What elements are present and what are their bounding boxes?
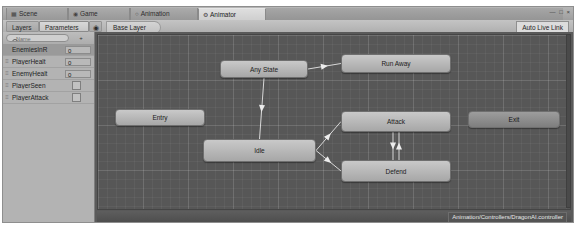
transition-arrow-icon — [259, 105, 265, 112]
parameter-checkbox[interactable] — [72, 93, 81, 102]
state-machine-canvas[interactable]: Any StateRun AwayEntryIdleAttackDefendEx… — [97, 34, 571, 210]
tab-strip-filler — [266, 8, 563, 20]
drag-handle-icon[interactable]: ≡ — [3, 56, 11, 67]
animator-icon: ⚙ — [203, 9, 208, 21]
tab-animation-label: Animation — [141, 8, 170, 20]
parameter-name-label: EnemiesInR — [11, 46, 65, 53]
state-node-attack[interactable]: Attack — [341, 111, 451, 132]
state-node-defend[interactable]: Defend — [341, 160, 451, 182]
parameter-row[interactable]: ≡EnemyHealt0 — [3, 68, 94, 80]
eye-icon[interactable]: ◉ — [89, 21, 102, 32]
graph-scrollbar[interactable] — [566, 34, 571, 208]
state-node-idle[interactable]: Idle — [203, 139, 316, 162]
game-icon: ◉ — [73, 8, 78, 20]
parameter-value-field[interactable]: 0 — [65, 70, 91, 78]
parameter-name-label: EnemyHealt — [11, 70, 65, 77]
tab-game-label: Game — [80, 8, 98, 20]
window-controls[interactable]: — □ × — [550, 9, 571, 15]
parameter-name-label: PlayerHealt — [11, 58, 65, 65]
drag-handle-icon[interactable]: ≡ — [3, 92, 11, 103]
controller-path-label: Animation/Controllers/DragonAI.controlle… — [448, 212, 567, 222]
animator-graph-panel[interactable]: Any StateRun AwayEntryIdleAttackDefendEx… — [95, 32, 573, 222]
parameter-row[interactable]: EnemiesInR0 — [3, 44, 94, 56]
state-node-exit[interactable]: Exit — [468, 111, 560, 128]
animator-window-root: ▦ Scene ◉ Game ○ Animation ⚙ Animator — … — [0, 0, 580, 229]
parameter-checkbox[interactable] — [72, 81, 81, 90]
parameter-row[interactable]: ≡PlayerHealt0 — [3, 56, 94, 68]
tab-animator-label: Animator — [210, 9, 236, 21]
state-node-label: Defend — [386, 168, 407, 175]
state-node-run-away[interactable]: Run Away — [341, 54, 451, 73]
transition-arrow-icon — [396, 143, 402, 150]
tab-animator[interactable]: ⚙ Animator — [198, 8, 266, 20]
state-node-entry[interactable]: Entry — [115, 109, 205, 126]
parameter-value-field[interactable]: 0 — [65, 46, 91, 54]
search-icon — [12, 39, 18, 43]
parameter-value-field[interactable]: 0 — [65, 58, 91, 66]
editor-tab-strip: ▦ Scene ◉ Game ○ Animation ⚙ Animator — … — [3, 7, 573, 21]
tab-scene-label: Scene — [19, 8, 37, 20]
state-node-label: Attack — [387, 118, 405, 125]
search-input[interactable]: Name — [6, 34, 69, 42]
parameter-list: EnemiesInR0≡PlayerHealt0≡EnemyHealt0≡Pla… — [3, 44, 94, 222]
tab-animation[interactable]: ○ Animation — [130, 8, 198, 20]
graph-status-bar: Animation/Controllers/DragonAI.controlle… — [97, 211, 571, 222]
tab-scene[interactable]: ▦ Scene — [6, 8, 68, 20]
parameters-panel: Name + EnemiesInR0≡PlayerHealt0≡EnemyHea… — [3, 32, 95, 222]
parameter-name-label: PlayerAttack — [11, 94, 72, 101]
tab-game[interactable]: ◉ Game — [68, 8, 130, 20]
state-node-label: Any State — [250, 66, 278, 73]
drag-handle-icon[interactable]: ≡ — [3, 80, 11, 91]
add-parameter-button[interactable]: + — [73, 34, 89, 42]
state-node-label: Run Away — [381, 60, 410, 67]
drag-handle-icon[interactable]: ≡ — [3, 68, 11, 79]
parameter-row[interactable]: ≡PlayerSeen — [3, 80, 94, 92]
parameter-row[interactable]: ≡PlayerAttack — [3, 92, 94, 104]
scene-icon: ▦ — [11, 8, 17, 20]
state-node-any-state[interactable]: Any State — [220, 60, 308, 78]
state-node-label: Exit — [509, 116, 520, 123]
parameter-name-label: PlayerSeen — [11, 82, 72, 89]
layers-button[interactable]: Layers — [6, 21, 39, 32]
parameters-button[interactable]: Parameters — [39, 21, 89, 32]
state-node-label: Idle — [254, 147, 264, 154]
editor-window: ▦ Scene ◉ Game ○ Animation ⚙ Animator — … — [2, 6, 574, 223]
transition-arrow-icon — [390, 143, 396, 150]
animation-icon: ○ — [135, 8, 139, 20]
state-node-label: Entry — [152, 114, 167, 121]
